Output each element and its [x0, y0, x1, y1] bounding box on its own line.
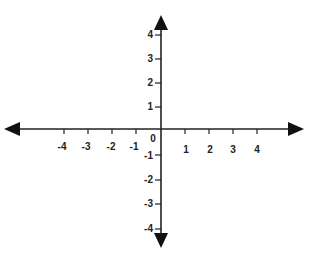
y-label-neg4: -4 [144, 224, 153, 234]
x-label-1: 1 [183, 145, 189, 155]
x-label-neg1: -1 [130, 142, 139, 152]
x-axis-left-arrow-icon [4, 122, 20, 136]
y-label-4: 4 [147, 30, 153, 40]
x-label-2: 2 [207, 145, 213, 155]
x-label-neg3: -3 [82, 142, 91, 152]
origin-label: 0 [150, 134, 156, 144]
x-axis-right-arrow-icon [288, 122, 304, 136]
coordinate-plane [0, 0, 315, 263]
y-label-neg1: -1 [144, 151, 153, 161]
x-label-3: 3 [230, 145, 236, 155]
y-label-neg3: -3 [144, 199, 153, 209]
y-label-3: 3 [147, 54, 153, 64]
y-label-neg2: -2 [144, 175, 153, 185]
x-label-neg2: -2 [107, 142, 116, 152]
x-label-4: 4 [254, 145, 260, 155]
y-label-1: 1 [147, 102, 153, 112]
y-label-2: 2 [147, 78, 153, 88]
x-label-neg4: -4 [58, 142, 67, 152]
y-axis-ticks [155, 35, 161, 229]
y-axis-down-arrow-icon [154, 233, 168, 248]
y-axis-up-arrow-icon [154, 15, 168, 30]
